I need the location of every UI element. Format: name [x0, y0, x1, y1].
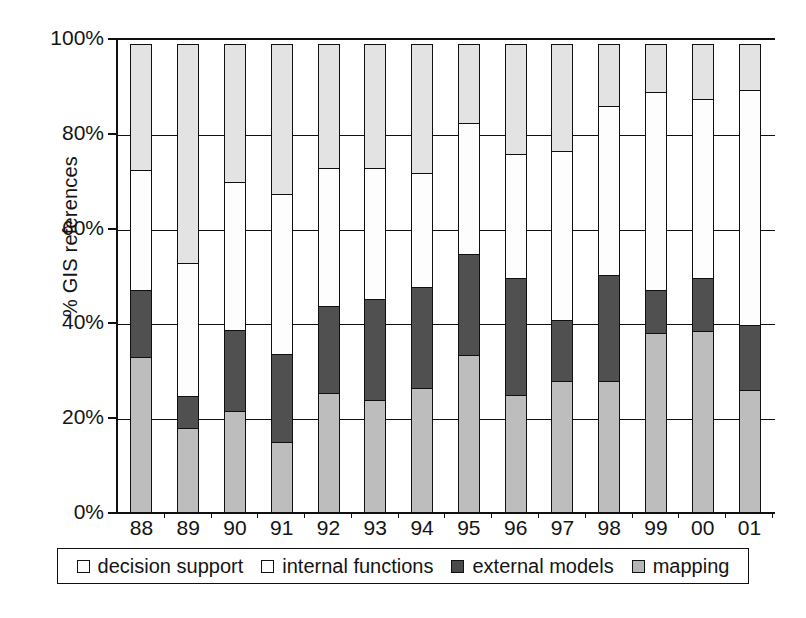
bar-slot [539, 38, 586, 512]
bar-segment-decision-support [364, 44, 386, 170]
bar-segment-internal-functions [692, 99, 714, 279]
bar-segment-mapping [271, 442, 293, 513]
bar-segment-external-models [130, 290, 152, 359]
x-tick-label: 95 [445, 516, 492, 540]
x-tick-label: 93 [352, 516, 399, 540]
bar-segment-external-models [551, 320, 573, 382]
bar-segment-internal-functions [130, 170, 152, 291]
stacked-bar[interactable] [271, 38, 293, 512]
y-tick-label-80: 80% [16, 121, 116, 145]
x-tick-label: 96 [492, 516, 539, 540]
bar-segment-internal-functions [318, 168, 340, 308]
bar-slot [586, 38, 633, 512]
stacked-bar[interactable] [130, 38, 152, 512]
bar-slot [445, 38, 492, 512]
bar-segment-decision-support [224, 44, 246, 184]
bar-segment-internal-functions [505, 154, 527, 280]
bar-segment-mapping [551, 381, 573, 514]
bar-segment-decision-support [271, 44, 293, 196]
bar-segment-internal-functions [271, 194, 293, 355]
bar-segment-decision-support [177, 44, 199, 264]
bar-segment-mapping [645, 333, 667, 513]
y-tick-label-40: 40% [16, 310, 116, 334]
stacked-bar[interactable] [177, 38, 199, 512]
bar-segment-mapping [364, 400, 386, 514]
legend-label-decision-support: decision support [98, 555, 244, 578]
bar-segment-mapping [318, 393, 340, 514]
bar-segment-mapping [177, 428, 199, 513]
y-tick-label-0: 0% [16, 500, 116, 524]
stacked-bar[interactable] [458, 38, 480, 512]
bar-segment-mapping [411, 388, 433, 514]
bar-segment-mapping [598, 381, 620, 514]
stacked-bar[interactable] [598, 38, 620, 512]
bar-segment-decision-support [505, 44, 527, 155]
bar-segment-mapping [130, 357, 152, 513]
y-tick-label-60: 60% [16, 216, 116, 240]
x-tick-label: 99 [633, 516, 680, 540]
bar-segment-decision-support [645, 44, 667, 94]
bar-segment-internal-functions [458, 123, 480, 256]
stacked-bar[interactable] [692, 38, 714, 512]
x-tick-label: 92 [305, 516, 352, 540]
bar-segment-external-models [271, 354, 293, 444]
legend-swatch-decision-support-icon [77, 560, 90, 573]
bar-segment-mapping [692, 331, 714, 513]
x-tick-label: 00 [679, 516, 726, 540]
stacked-bar[interactable] [645, 38, 667, 512]
legend-swatch-external-models-icon [451, 560, 464, 573]
x-tick-label: 01 [726, 516, 773, 540]
legend-item-decision-support[interactable]: decision support [77, 555, 244, 578]
bar-segment-external-models [224, 330, 246, 413]
y-tick-label-100: 100% [16, 26, 116, 50]
bar-slot [633, 38, 680, 512]
bar-slot [679, 38, 726, 512]
legend: decision support internal functions exte… [57, 548, 749, 584]
bar-segment-mapping [224, 411, 246, 513]
bar-slot [305, 38, 352, 512]
stacked-bar[interactable] [739, 38, 761, 512]
stacked-bar[interactable] [411, 38, 433, 512]
bar-segment-external-models [177, 396, 199, 429]
stacked-bar[interactable] [224, 38, 246, 512]
bar-slot [726, 38, 773, 512]
stacked-bar[interactable] [318, 38, 340, 512]
bar-segment-decision-support [411, 44, 433, 174]
stacked-bar[interactable] [364, 38, 386, 512]
stacked-bar[interactable] [551, 38, 573, 512]
x-tick-label: 88 [118, 516, 165, 540]
y-axis-ticks: 100% 80% 60% 40% 20% 0% [0, 0, 116, 618]
bar-segment-decision-support [318, 44, 340, 170]
legend-label-mapping: mapping [653, 555, 730, 578]
bar-slot [352, 38, 399, 512]
legend-swatch-internal-functions-icon [261, 560, 274, 573]
legend-item-internal-functions[interactable]: internal functions [261, 555, 433, 578]
bar-segment-decision-support [692, 44, 714, 101]
bar-segment-external-models [505, 278, 527, 397]
bar-segment-external-models [364, 299, 386, 401]
bar-segment-external-models [645, 290, 667, 335]
bar-segment-external-models [411, 287, 433, 389]
bar-segment-decision-support [598, 44, 620, 108]
x-tick-label: 94 [399, 516, 446, 540]
bar-segment-mapping [739, 390, 761, 513]
legend-item-external-models[interactable]: external models [451, 555, 613, 578]
bar-segment-external-models [318, 306, 340, 394]
bar-segment-internal-functions [364, 168, 386, 301]
bar-segment-external-models [739, 325, 761, 391]
stacked-bar-chart: % GIS references 100% 80% 60% 40% 20% 0%… [0, 0, 806, 618]
legend-label-internal-functions: internal functions [282, 555, 433, 578]
bar-segment-mapping [505, 395, 527, 514]
bar-slot [212, 38, 259, 512]
bar-segment-mapping [458, 355, 480, 514]
x-tick-label: 97 [539, 516, 586, 540]
bar-segment-internal-functions [739, 90, 761, 327]
legend-item-mapping[interactable]: mapping [632, 555, 730, 578]
x-axis-labels: 8889909192939495969798990001 [118, 516, 773, 540]
stacked-bar[interactable] [505, 38, 527, 512]
bar-slot [118, 38, 165, 512]
bar-segment-decision-support [458, 44, 480, 125]
bars-layer [118, 38, 773, 512]
bar-slot [165, 38, 212, 512]
legend-swatch-mapping-icon [632, 560, 645, 573]
